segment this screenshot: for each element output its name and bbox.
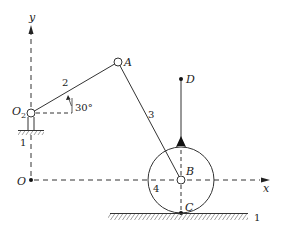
coupler-label: 3 bbox=[148, 109, 154, 120]
point-c-label: C bbox=[185, 201, 194, 214]
mechanism-diagram: y x O 1 30° 2 3 D bbox=[0, 0, 282, 236]
x-axis-label: x bbox=[263, 182, 270, 195]
ground-right-label: 1 bbox=[254, 212, 260, 223]
point-d bbox=[179, 77, 183, 81]
coupler-link-3 bbox=[118, 62, 181, 180]
y-axis-label: y bbox=[28, 11, 36, 24]
ground-left-label: 1 bbox=[20, 137, 26, 148]
crank-label: 2 bbox=[62, 77, 68, 88]
point-o2-label: O2 bbox=[12, 105, 26, 120]
pin-b bbox=[177, 176, 185, 184]
wheel-label: 4 bbox=[153, 183, 159, 194]
pin-o2 bbox=[27, 109, 35, 117]
weld-icon bbox=[176, 136, 186, 147]
ground-right bbox=[108, 214, 248, 221]
point-a-label: A bbox=[123, 56, 132, 69]
point-d-label: D bbox=[185, 73, 195, 86]
point-b-label: B bbox=[185, 165, 194, 178]
pin-a bbox=[114, 58, 122, 66]
y-axis-arrow-icon bbox=[29, 25, 34, 34]
origin-label: O bbox=[17, 175, 26, 188]
angle-arrow-icon bbox=[66, 95, 71, 100]
angle-label: 30° bbox=[75, 102, 93, 113]
origin-point bbox=[29, 178, 33, 182]
x-axis bbox=[34, 178, 270, 183]
y-axis bbox=[29, 25, 34, 180]
